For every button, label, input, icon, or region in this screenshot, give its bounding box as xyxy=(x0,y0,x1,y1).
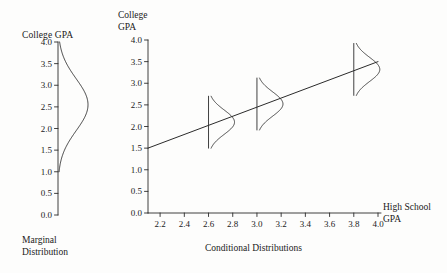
statistics-figure: College GPA Marginal Distribution Colleg… xyxy=(0,0,447,273)
figure-vector-layer xyxy=(0,0,447,273)
